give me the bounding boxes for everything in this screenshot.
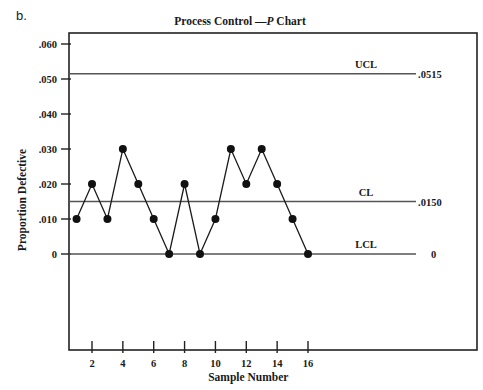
data-point bbox=[150, 215, 158, 223]
chart-title: Process Control —P Chart bbox=[174, 15, 306, 27]
x-axis-label: Sample Number bbox=[208, 371, 288, 384]
data-point bbox=[103, 215, 111, 223]
x-tick-label: 14 bbox=[272, 358, 283, 369]
x-tick-label: 6 bbox=[151, 358, 156, 369]
lcl-value: 0 bbox=[431, 249, 436, 260]
plot-frame bbox=[69, 33, 477, 350]
p-chart: Process Control —P Chart.060.050.040.030… bbox=[0, 0, 483, 390]
y-tick-label: .030 bbox=[39, 144, 57, 155]
data-point bbox=[73, 215, 81, 223]
x-tick-label: 8 bbox=[182, 358, 187, 369]
data-point bbox=[273, 180, 281, 188]
ucl-label: UCL bbox=[355, 59, 377, 70]
y-tick-label: .020 bbox=[39, 179, 57, 190]
data-point bbox=[289, 215, 297, 223]
ucl-value: .0515 bbox=[418, 69, 442, 80]
data-point bbox=[196, 250, 204, 258]
lcl-label: LCL bbox=[355, 239, 377, 250]
y-tick-label: .060 bbox=[39, 39, 57, 50]
data-point bbox=[227, 145, 235, 153]
data-point bbox=[211, 215, 219, 223]
data-point bbox=[242, 180, 250, 188]
data-point bbox=[134, 180, 142, 188]
data-point bbox=[119, 145, 127, 153]
cl-value: .0150 bbox=[418, 197, 442, 208]
data-point bbox=[258, 145, 266, 153]
y-tick-label: 0 bbox=[52, 249, 57, 260]
x-tick-label: 4 bbox=[120, 358, 126, 369]
x-tick-label: 12 bbox=[241, 358, 252, 369]
x-tick-label: 10 bbox=[210, 358, 221, 369]
data-point bbox=[181, 180, 189, 188]
x-tick-label: 16 bbox=[303, 358, 314, 369]
y-tick-label: .010 bbox=[39, 214, 57, 225]
data-point bbox=[165, 250, 173, 258]
y-tick-label: .050 bbox=[39, 74, 57, 85]
y-tick-label: .040 bbox=[39, 109, 57, 120]
x-tick-label: 2 bbox=[89, 358, 94, 369]
cl-label: CL bbox=[359, 187, 374, 198]
data-point bbox=[304, 250, 312, 258]
y-axis-label: Proportion Defective bbox=[16, 149, 29, 251]
data-point bbox=[88, 180, 96, 188]
